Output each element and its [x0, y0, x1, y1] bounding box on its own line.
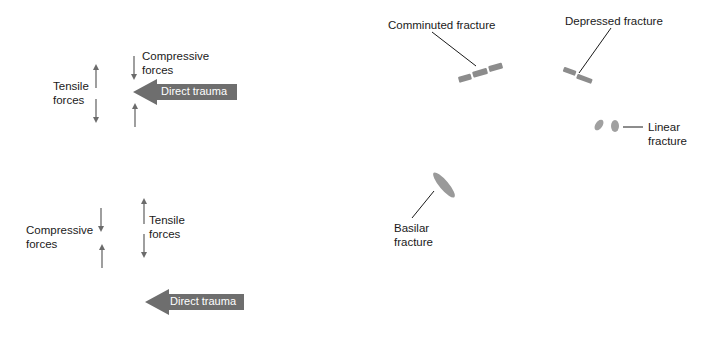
fracture-illustrations	[0, 0, 708, 340]
depressed-leader-line	[579, 28, 611, 73]
linear-fracture-icon	[593, 118, 619, 132]
depressed-fracture-icon	[562, 67, 594, 84]
basilar-fracture-icon	[430, 170, 457, 200]
comminuted-fracture-icon	[457, 62, 503, 82]
basilar-leader-line	[412, 191, 434, 218]
comminuted-leader-line	[432, 32, 476, 66]
